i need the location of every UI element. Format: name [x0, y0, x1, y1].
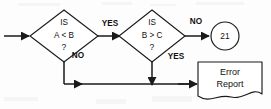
- decision-1-line2: A < B: [54, 31, 74, 40]
- edge-label-decision1-no: NO: [72, 51, 85, 60]
- error-report-line2: Report: [216, 79, 244, 89]
- node-connector-21[interactable]: 21: [211, 22, 239, 50]
- edge-label-decision2-no: NO: [190, 17, 203, 26]
- node-decision-1[interactable]: IS A < B ?: [30, 10, 98, 62]
- decision-2-line2: B > C: [142, 31, 163, 40]
- flowchart-canvas: IS A < B ? IS B > C ? 21 Error Report YE…: [0, 0, 271, 109]
- node-error-report[interactable]: Error Report: [198, 62, 262, 99]
- decision-1-line1: IS: [60, 18, 68, 27]
- svg-text:NO: NO: [190, 17, 203, 26]
- error-report-line1: Error: [220, 67, 240, 77]
- decision-2-line1: IS: [148, 18, 156, 27]
- svg-text:YES: YES: [168, 52, 185, 61]
- edge-decision1-no: [64, 62, 197, 84]
- svg-text:NO: NO: [72, 51, 85, 60]
- decision-2-line3: ?: [150, 42, 155, 52]
- edge-label-decision2-yes: YES: [168, 52, 185, 61]
- svg-text:YES: YES: [102, 19, 119, 28]
- edge-label-decision1-yes: YES: [102, 19, 119, 28]
- decision-1-line3: ?: [62, 42, 67, 52]
- connector-21-label: 21: [220, 31, 230, 41]
